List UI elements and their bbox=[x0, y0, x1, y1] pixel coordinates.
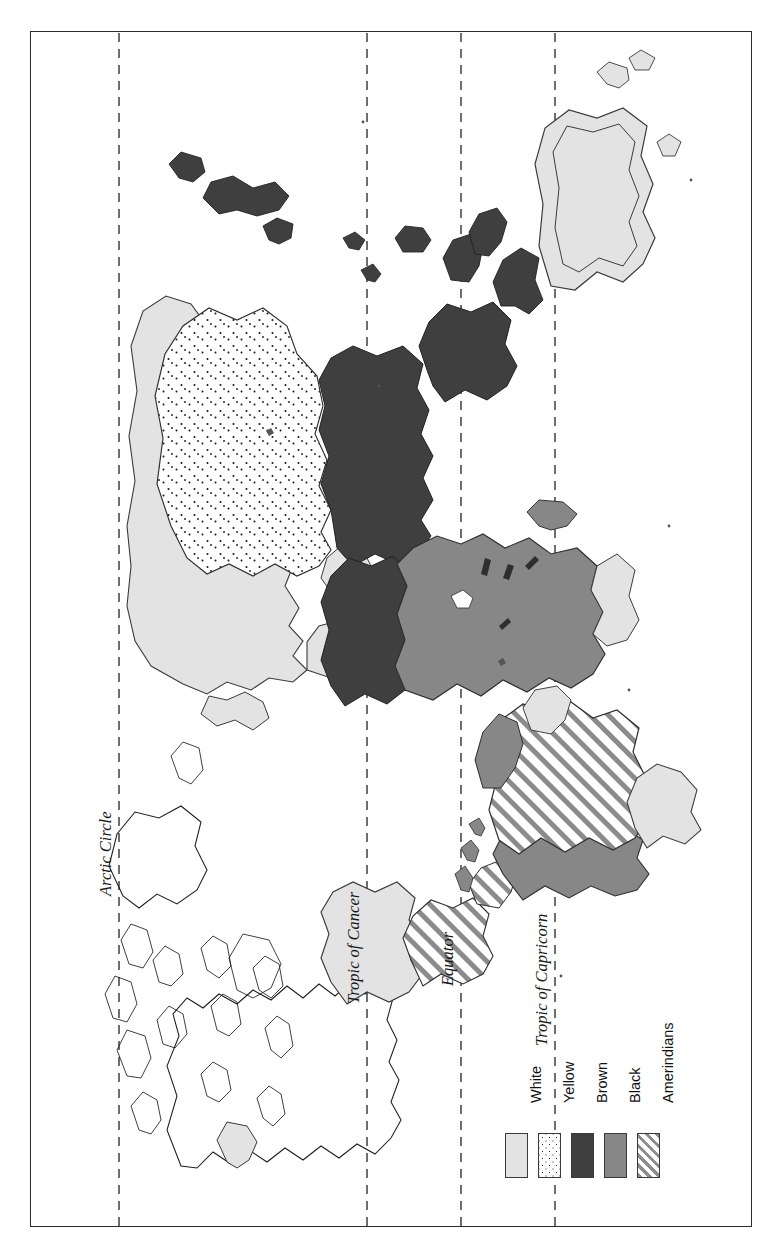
legend-label-white: White bbox=[525, 1080, 548, 1103]
legend-swatch-brown bbox=[571, 1133, 594, 1178]
legend-label-yellow: Yellow bbox=[558, 1080, 581, 1103]
legend-swatch-black bbox=[604, 1133, 627, 1178]
tropic-of-cancer-label: Tropic of Cancer bbox=[344, 891, 363, 1004]
map-frame: Arctic Circle Tropic of Cancer Equator T… bbox=[30, 31, 752, 1227]
legend-swatch-amerindians bbox=[637, 1133, 660, 1178]
equator-label: Equator bbox=[438, 931, 457, 987]
region-brown-africa-north bbox=[321, 556, 415, 706]
legend-label-black: Black bbox=[624, 1080, 647, 1103]
legend-label-amerindians: Amerindians bbox=[657, 1080, 680, 1103]
legend-swatch-white bbox=[505, 1133, 528, 1178]
figure-page: Arctic Circle Tropic of Cancer Equator T… bbox=[0, 0, 773, 1250]
arctic-circle-label: Arctic Circle bbox=[96, 812, 115, 897]
legend-swatch-yellow bbox=[538, 1133, 561, 1178]
map-legend: White Yellow Brown Black Amerindians bbox=[505, 1012, 685, 1178]
region-brown-india bbox=[319, 346, 433, 566]
legend-label-brown: Brown bbox=[591, 1080, 614, 1103]
